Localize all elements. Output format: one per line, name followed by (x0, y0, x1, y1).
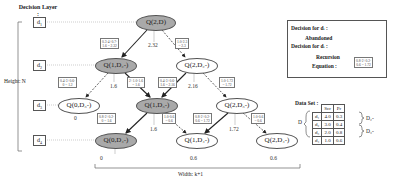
value-q2d2: 2.16 (188, 83, 198, 89)
equation-box: 1.0·1.72= 1.72 (219, 77, 235, 88)
layer-d4: d4 (33, 135, 46, 146)
col-pr: Pr (333, 105, 344, 113)
dataset-header-row: Scr Pr (313, 105, 345, 113)
dataset-table: Scr Pr d₁ 4.0 0.3 d₂ 3.0 0.4 d₃ 2.0 0.8 … (312, 104, 345, 145)
dataset-row: d₁ 4.0 0.3 (313, 113, 345, 121)
layer-d3: d3 (33, 100, 46, 111)
value-q0d4: 0 (100, 155, 103, 161)
dataset-row: d₄ 1.0 0.6 (313, 137, 345, 145)
layer-d2: d2 (33, 60, 46, 71)
node-q1d3: Q(1,D₃-) (136, 98, 178, 114)
equation-box: 0.8·2+0.2·0.6 = 1.72 (193, 113, 212, 124)
dataset-group-d2: D₂- (366, 115, 374, 121)
value-q2d: 2.32 (148, 42, 158, 48)
value-q2d3: 1.72 (229, 126, 239, 132)
equation-box: 1.0·0.6= 0.6 (162, 113, 176, 124)
legend-abandoned-label: Abandoned (305, 35, 332, 41)
node-q2d: Q(2,D) (136, 15, 176, 31)
legend: Decision for dᵢ : Abandoned Decision for… (287, 20, 387, 78)
node-q1d4: Q(1,D₄-) (176, 133, 218, 149)
node-q0d3: Q(0,D₃-) (58, 98, 100, 114)
decision-layer-label: Decision Layer : (18, 4, 58, 18)
width-label: Width: k+1 (178, 171, 203, 177)
value-q1d4: 0.6 (190, 155, 197, 161)
equation-box: 1.0·2.3= 2.3 (175, 38, 189, 49)
value-q1d2: 1.6 (110, 83, 117, 89)
dataset-set-label: D (298, 119, 302, 125)
node-q2d2: Q(2,D₂-) (176, 58, 218, 74)
equation-box: 0.3·4+0.7·1.6 = 2.32 (100, 38, 119, 49)
legend-abandoned-decision-label: Decision for dᵢ : (291, 43, 328, 49)
node-q2d3: Q(2,D₃-) (216, 98, 258, 114)
layer-d1: d1 (33, 17, 46, 28)
equation-box: 1.0·0.6= 0.6 (251, 113, 265, 124)
equation-box: 0.4·3+0.6·1.6 = 2.16 (158, 77, 177, 88)
legend-sample-equation: 0.8·2+0.2·0.6 = 1.72 (354, 57, 373, 68)
height-label: Height: N (4, 78, 26, 84)
dataset-row: d₂ 3.0 0.4 (313, 121, 345, 129)
legend-equation-label: Equation : (312, 63, 337, 69)
node-q1d2: Q(1,D₂-) (95, 58, 137, 74)
dataset-group-d3: D₃- (366, 128, 374, 134)
equation-box: 2+1.0·1.6= 1.6 (127, 77, 145, 88)
value-q0d3: 0 (74, 115, 77, 121)
dataset-row: d₃ 2.0 0.8 (313, 129, 345, 137)
node-q0d4: Q(0,D₄-) (95, 133, 137, 149)
value-q1d3: 1.6 (150, 126, 157, 132)
node-q2d4: Q(2,D₄-) (256, 133, 298, 149)
legend-decision-label: Decision for dᵢ : (291, 25, 328, 31)
value-q2d4: 0.6 (270, 155, 277, 161)
equation-box: 0.4·3+0.6·0 = 1.2 (58, 77, 77, 88)
legend-recursion-label: Recursion (316, 54, 340, 60)
col-scr: Scr (322, 105, 334, 113)
equation-box: 0.8·2+0.2·0 = 1.6 (97, 113, 116, 124)
